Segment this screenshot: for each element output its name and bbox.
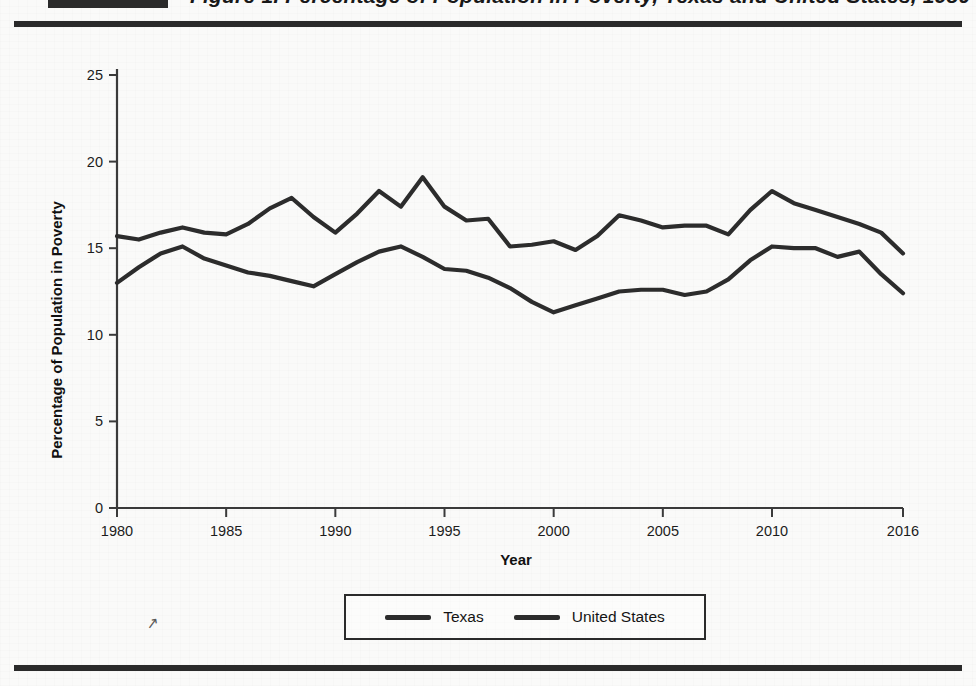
- x-tick-label: 1990: [319, 523, 351, 539]
- x-axis: 19801985199019952000200520102016: [101, 508, 919, 539]
- legend-label: Texas: [443, 608, 484, 626]
- x-tick-label: 2010: [756, 523, 788, 539]
- y-tick-label: 5: [95, 413, 103, 429]
- y-tick-label: 15: [87, 240, 103, 256]
- series-line-united-states: [117, 246, 903, 312]
- y-axis-title: Percentage of Population in Poverty: [48, 201, 65, 459]
- legend-item-texas[interactable]: Texas: [385, 608, 484, 626]
- legend-label: United States: [572, 608, 665, 626]
- series-group: [117, 177, 903, 312]
- title-block: Figure 1. Percentage of Population in Po…: [0, 0, 976, 12]
- legend-item-united-states[interactable]: United States: [514, 608, 665, 626]
- series-line-texas: [117, 177, 903, 253]
- x-tick-label: 1995: [428, 523, 460, 539]
- page-title: Figure 1. Percentage of Population in Po…: [190, 0, 930, 8]
- x-tick-label: 2016: [887, 523, 919, 539]
- figure-page: Figure 1. Percentage of Population in Po…: [0, 0, 976, 686]
- y-axis: 0510152025: [87, 67, 117, 516]
- x-tick-label: 1980: [101, 523, 133, 539]
- x-axis-title: Year: [500, 551, 532, 568]
- legend-swatch-icon: [514, 615, 560, 620]
- rule-top: [14, 21, 962, 27]
- stray-pen-mark: ↗: [145, 613, 160, 633]
- y-tick-label: 0: [95, 500, 103, 516]
- y-tick-label: 10: [87, 327, 103, 343]
- line-chart: 0510152025 19801985199019952000200520102…: [0, 30, 976, 660]
- plot-area: 0510152025 19801985199019952000200520102…: [0, 30, 976, 660]
- legend: Texas United States: [344, 594, 706, 640]
- legend-swatch-icon: [385, 615, 431, 620]
- x-tick-label: 2005: [647, 523, 679, 539]
- x-tick-label: 2000: [538, 523, 570, 539]
- title-marker-block: [48, 0, 168, 8]
- y-tick-label: 20: [87, 154, 103, 170]
- y-tick-label: 25: [87, 67, 103, 83]
- rule-bottom: [14, 665, 962, 671]
- x-tick-label: 1985: [210, 523, 242, 539]
